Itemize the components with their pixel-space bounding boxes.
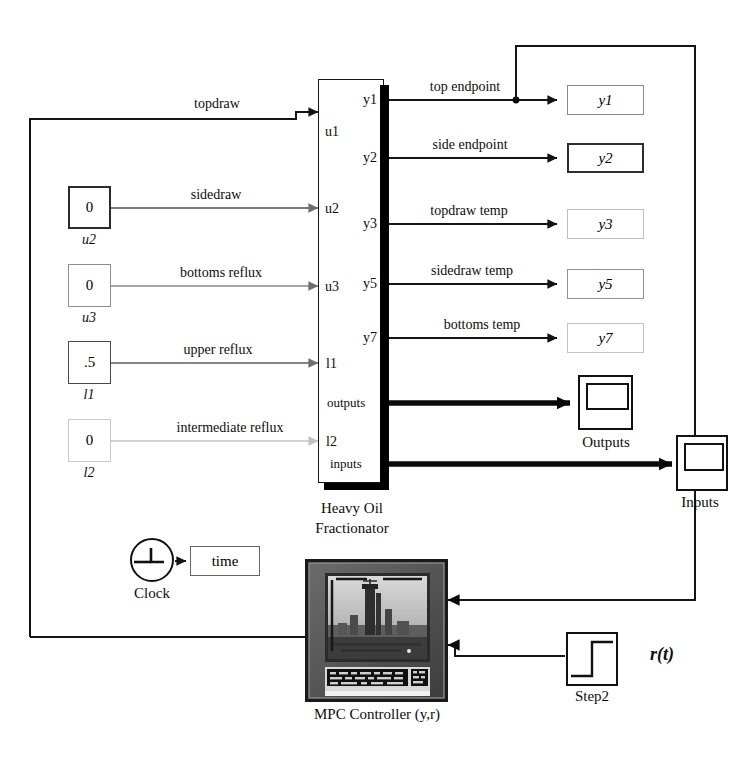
constant-label-l1: l1	[84, 387, 95, 402]
display-block-y5[interactable]: y5	[567, 269, 644, 299]
reference-signal-label: r(t)	[650, 645, 674, 665]
plant-output-port-y3: y3	[363, 216, 377, 231]
wire-step2-to-mpc	[448, 645, 565, 656]
display-block-time[interactable]: time	[190, 546, 260, 576]
plant-bus-port-inputs: inputs	[330, 457, 362, 471]
plant-input-port-l1: l1	[326, 356, 337, 371]
step-block-step2[interactable]	[566, 632, 618, 686]
constant-value-u3: 0	[86, 277, 94, 294]
mpc-monitor-icon	[305, 559, 448, 702]
constant-block-l1[interactable]: .5	[68, 341, 111, 384]
wire-y1-display	[389, 97, 557, 104]
mpc-controller-label: MPC Controller (y,r)	[314, 706, 440, 723]
plant-output-port-y5: y5	[363, 276, 377, 291]
step-icon	[568, 634, 616, 684]
plant-output-port-y2: y2	[363, 150, 377, 165]
plant-output-port-y1: y1	[363, 92, 377, 107]
scope-label-inputs: Inputs	[681, 494, 719, 511]
plant-name-line2: Fractionator	[315, 520, 388, 537]
scope-block-inputs[interactable]	[676, 435, 728, 491]
signal-label-upper-reflux: upper reflux	[184, 342, 253, 357]
plant-input-port-l2: l2	[326, 434, 337, 449]
signal-label-topdraw: topdraw	[194, 96, 240, 111]
step-block-label: Step2	[575, 688, 609, 705]
constant-block-u3[interactable]: 0	[68, 264, 111, 307]
display-block-y7[interactable]: y7	[567, 323, 644, 353]
display-value-y3: y3	[598, 216, 612, 233]
signal-label-bottoms-temp: bottoms temp	[444, 317, 521, 332]
plant-input-port-u2: u2	[325, 201, 339, 216]
simulink-diagram-canvas: u1 u2 u3 l1 l2 y1 y2 y3 y5 y7 outputs in…	[0, 0, 729, 761]
display-value-y1: y1	[598, 92, 612, 109]
plant-input-port-u3: u3	[325, 279, 339, 294]
plant-output-port-y7: y7	[363, 330, 377, 345]
plant-bottom-shadow-bar	[324, 483, 389, 490]
signal-label-sidedraw-temp: sidedraw temp	[431, 263, 513, 278]
scope-block-outputs[interactable]	[578, 375, 633, 430]
clock-block-label: Clock	[134, 585, 170, 602]
constant-label-l2: l2	[84, 465, 95, 480]
signal-label-intermediate-reflux: intermediate reflux	[177, 420, 284, 435]
display-value-y5: y5	[598, 276, 612, 293]
constant-block-l2[interactable]: 0	[68, 419, 111, 462]
display-value-y2: y2	[598, 150, 612, 167]
mpc-controller-block[interactable]	[305, 559, 448, 702]
plant-input-port-u1: u1	[325, 124, 339, 139]
signal-label-top-endpoint: top endpoint	[430, 79, 500, 94]
display-block-y3[interactable]: y3	[567, 209, 644, 239]
constant-value-l2: 0	[86, 432, 94, 449]
clock-icon[interactable]	[130, 538, 174, 582]
scope-screen-inputs	[684, 443, 724, 471]
constant-value-u2: 0	[86, 199, 94, 216]
signal-junction-dot	[513, 97, 520, 104]
display-value-time: time	[212, 553, 239, 570]
scope-label-outputs: Outputs	[582, 434, 630, 451]
constant-label-u2: u2	[82, 232, 96, 247]
display-block-y1[interactable]: y1	[567, 85, 644, 115]
plant-bus-port-outputs: outputs	[327, 396, 365, 410]
display-value-y7: y7	[598, 330, 612, 347]
constant-block-u2[interactable]: 0	[68, 186, 111, 229]
plant-name-line1: Heavy Oil	[321, 500, 383, 517]
signal-label-side-endpoint: side endpoint	[432, 137, 507, 152]
constant-label-u3: u3	[82, 310, 96, 325]
scope-screen-outputs	[586, 383, 629, 410]
display-block-y2[interactable]: y2	[567, 143, 644, 173]
signal-label-bottoms-reflux: bottoms reflux	[180, 265, 262, 280]
plant-right-shadow-bar	[380, 85, 389, 489]
signal-label-topdraw-temp: topdraw temp	[430, 203, 507, 218]
constant-value-l1: .5	[84, 354, 95, 371]
clock-hands-icon	[132, 540, 176, 584]
signal-label-sidedraw: sidedraw	[191, 187, 242, 202]
